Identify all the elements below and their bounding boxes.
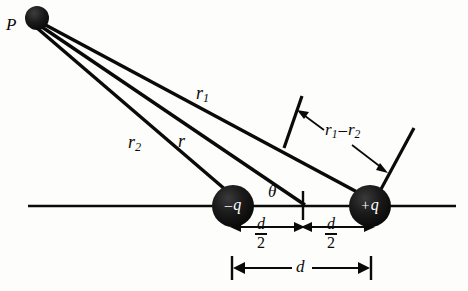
r2-line [37,28,234,197]
negative-charge-label: –q [213,197,253,213]
difference-leader-right [352,145,382,168]
separation-arrowhead-right [358,262,370,274]
separation-label: d [296,258,305,275]
figure-canvas [0,0,468,291]
separation-arrowhead-left [233,262,245,274]
field-point-label: P [6,16,16,33]
half-separation-right-arrow-start [301,222,312,232]
wavefront-tick-near [284,96,302,148]
field-point-sphere [25,6,49,30]
theta-angle-label: θ [268,183,276,200]
r1-label: r1 [196,84,209,105]
r-label: r [178,132,185,150]
r-line [39,25,305,205]
half-separation-left-label: d 2 [255,216,267,252]
half-separation-right-label: d 2 [325,216,337,252]
dipole-geometry-figure: P r1 r2 r r1–r2 θ –q +q d 2 d 2 d [0,0,468,291]
path-difference-label: r1–r2 [325,121,360,141]
r2-label: r2 [128,133,141,154]
positive-charge-label: +q [350,197,390,213]
